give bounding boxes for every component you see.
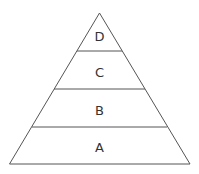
level-label-a: A [95, 140, 104, 155]
level-label-d: D [94, 29, 104, 44]
level-label-c: C [95, 65, 104, 80]
pyramid-diagram: D C B A [0, 0, 199, 174]
level-label-b: B [95, 103, 104, 118]
